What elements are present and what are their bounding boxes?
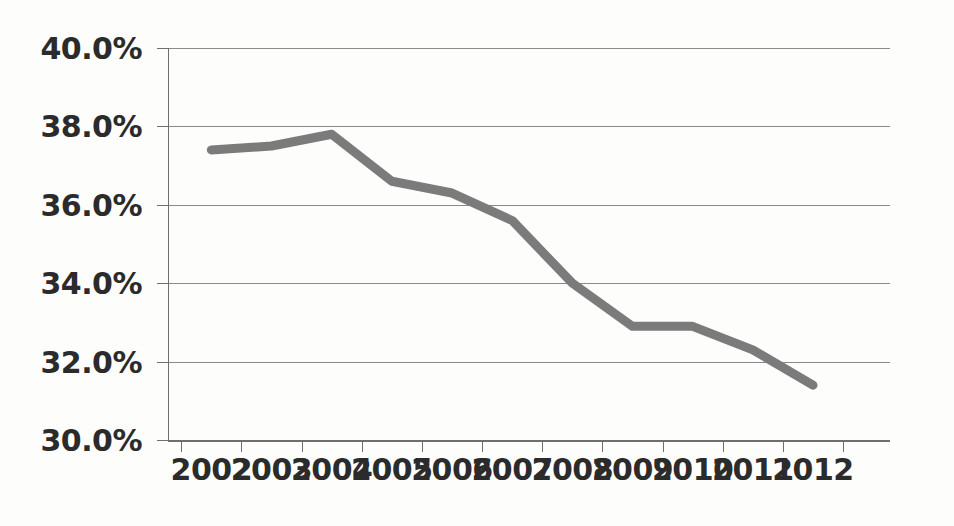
x-axis-tick-label: 2012 (772, 452, 854, 487)
y-axis-tick-mark (157, 126, 168, 127)
y-axis-tick-label: 40.0% (40, 31, 142, 66)
y-axis-tick-mark (157, 440, 168, 441)
y-axis-tick-label: 36.0% (40, 187, 142, 222)
y-axis-tick-label-group: 40.0%38.0%36.0%34.0%32.0%30.0% (0, 0, 152, 526)
plot-area (168, 48, 890, 440)
y-axis-tick-label: 38.0% (40, 109, 142, 144)
x-axis-line (168, 440, 890, 442)
y-axis-tick-label: 30.0% (40, 423, 142, 458)
y-axis-tick-mark (157, 48, 168, 49)
data-series-line (168, 48, 890, 440)
y-axis-tick-label: 32.0% (40, 344, 142, 379)
y-axis-tick-mark (157, 283, 168, 284)
y-axis-tick-label: 34.0% (40, 266, 142, 301)
x-axis-tick-label-group: 2002200320042005200620072008200920102011… (168, 452, 890, 502)
y-axis-tick-mark (157, 205, 168, 206)
y-axis-tick-mark (157, 362, 168, 363)
line-chart: 40.0%38.0%36.0%34.0%32.0%30.0% 200220032… (0, 0, 954, 526)
